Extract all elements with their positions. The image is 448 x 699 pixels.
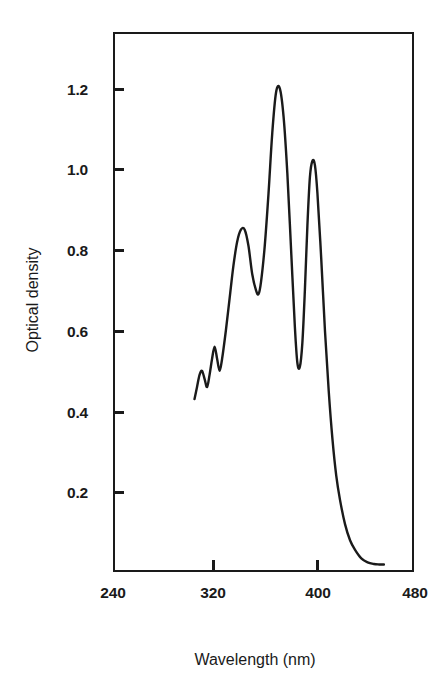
y-axis-title: Optical density [25, 200, 41, 400]
x-tick-label: 320 [183, 585, 243, 601]
x-tick-mark [316, 560, 319, 572]
y-tick-label: 0.4 [44, 405, 88, 421]
y-tick-label: 0.8 [44, 243, 88, 259]
x-tick-mark [212, 560, 215, 572]
y-tick-mark [113, 249, 124, 252]
x-tick-label: 240 [83, 585, 143, 601]
y-tick-label: 1.2 [44, 82, 88, 98]
x-tick-label: 480 [385, 585, 445, 601]
spectrum-figure: 1.2 1.0 0.8 0.6 0.4 0.2 240 320 400 480 … [0, 0, 448, 699]
x-axis-title: Wavelength (nm) [0, 652, 448, 668]
y-tick-label: 0.6 [44, 324, 88, 340]
y-tick-mark [113, 330, 124, 333]
plot-frame [113, 32, 414, 572]
y-tick-label: 1.0 [44, 162, 88, 178]
y-tick-mark [113, 411, 124, 414]
y-tick-mark [113, 491, 124, 494]
y-tick-mark [113, 168, 124, 171]
y-tick-mark [113, 88, 124, 91]
y-tick-label: 0.2 [44, 485, 88, 501]
x-tick-label: 400 [288, 585, 348, 601]
